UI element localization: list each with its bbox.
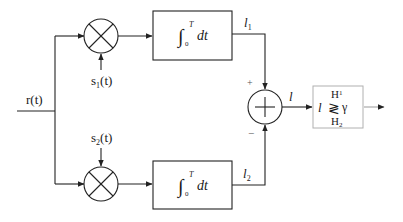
plus-sign: + [247, 77, 253, 88]
multiplier-1 [84, 19, 118, 53]
input-label: r(t) [26, 92, 43, 107]
svg-text:T: T [189, 20, 194, 29]
summer [248, 90, 282, 124]
svg-text:≷: ≷ [328, 101, 340, 116]
multiplier-2 [84, 167, 118, 201]
svg-text:0: 0 [185, 40, 189, 48]
svg-text:γ: γ [341, 100, 348, 114]
integrator-1 [153, 11, 232, 60]
reference-1-label: s1(t) [91, 73, 112, 90]
summer-output-label: l [289, 89, 293, 104]
svg-text:T: T [189, 170, 194, 179]
input-line [17, 36, 84, 184]
block-diagram: r(t) s1(t) ∫ T 0 dt l1 + s2(t) ∫ T 0 dt … [0, 0, 403, 222]
svg-text:dt: dt [197, 28, 209, 43]
branch-2-output-label: l2 [243, 166, 251, 183]
svg-text:0: 0 [185, 190, 189, 198]
integrator-2 [153, 161, 232, 209]
branch-1-output-label: l1 [244, 15, 252, 32]
svg-text:l: l [318, 100, 322, 115]
reference-2-label: s2(t) [91, 130, 112, 147]
svg-text:dt: dt [197, 178, 209, 193]
minus-sign: − [248, 127, 254, 139]
